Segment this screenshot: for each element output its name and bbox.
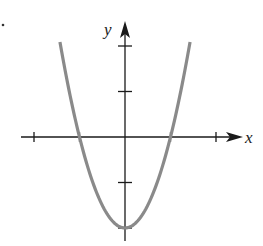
x-axis-label: x <box>244 128 253 147</box>
stray-dot <box>2 24 5 27</box>
y-axis <box>118 21 132 241</box>
y-axis-label: y <box>102 20 112 39</box>
parabola-chart: y x <box>0 0 263 246</box>
x-axis <box>21 132 243 142</box>
